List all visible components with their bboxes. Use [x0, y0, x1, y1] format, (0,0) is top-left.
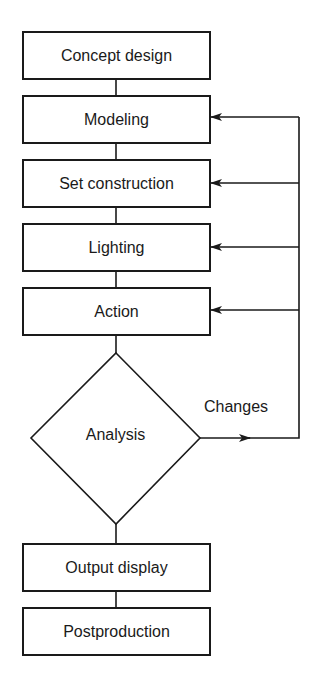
node-postproduction: Postproduction	[22, 607, 211, 656]
node-output-display: Output display	[22, 543, 211, 592]
node-lighting: Lighting	[22, 223, 211, 272]
node-set-construction: Set construction	[22, 159, 211, 208]
node-action: Action	[22, 287, 211, 336]
changes-label: Changes	[204, 398, 268, 416]
node-concept-design: Concept design	[22, 31, 211, 80]
node-analysis-label: Analysis	[31, 426, 200, 444]
feedback-line	[246, 117, 299, 438]
node-modeling: Modeling	[22, 95, 211, 144]
